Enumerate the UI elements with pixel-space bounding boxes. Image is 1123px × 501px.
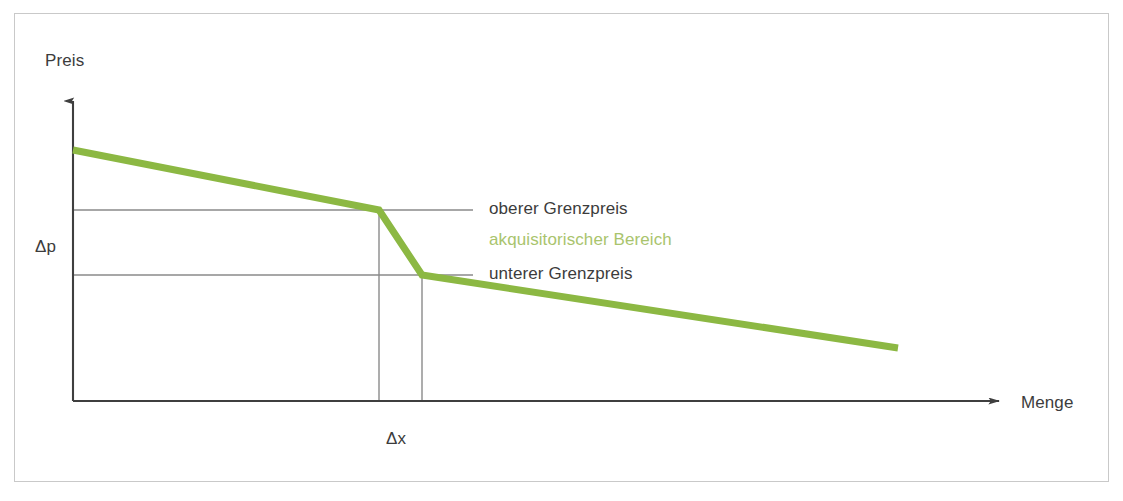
delta-p-label: Δp xyxy=(35,238,56,255)
annotation-akquisitorischer-bereich: akquisitorischer Bereich xyxy=(489,231,672,248)
delta-x-label: Δx xyxy=(386,430,406,447)
figure-root: Preis Δp Δx Menge oberer Grenzpreis akqu… xyxy=(0,0,1123,501)
annotation-oberer-grenzpreis: oberer Grenzpreis xyxy=(489,200,628,217)
y-axis-title: Preis xyxy=(45,52,84,69)
guide-lines-group xyxy=(73,210,473,401)
annotation-unterer-grenzpreis: unterer Grenzpreis xyxy=(489,265,633,282)
chart-canvas xyxy=(0,0,1123,501)
preis-absatz-funktion-curve xyxy=(73,150,898,348)
axes-group xyxy=(73,101,999,401)
x-axis-title: Menge xyxy=(1021,394,1073,411)
